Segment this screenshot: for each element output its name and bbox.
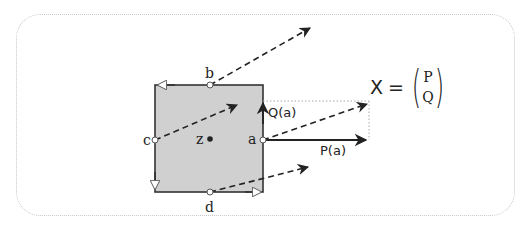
label-c: c bbox=[143, 132, 151, 148]
vector-field-diagram: b c z a d Q(a) P(a) bbox=[0, 0, 532, 232]
point-a bbox=[260, 137, 266, 143]
point-b bbox=[207, 82, 213, 88]
formula-open-paren: ( bbox=[412, 64, 421, 110]
formula-close-paren: ) bbox=[434, 64, 443, 110]
formula-top-entry: P bbox=[423, 67, 432, 87]
point-c bbox=[152, 137, 158, 143]
formula-equals: = bbox=[388, 76, 404, 98]
label-z: z bbox=[196, 131, 203, 147]
label-p-of-a: P(a) bbox=[320, 143, 346, 158]
label-a: a bbox=[248, 131, 256, 147]
center-point-z bbox=[207, 136, 213, 142]
label-q-of-a: Q(a) bbox=[268, 105, 296, 120]
formula-column-vector: P Q bbox=[422, 67, 433, 107]
vector-at-b bbox=[210, 28, 310, 85]
vector-field-formula: X = ( P Q ) bbox=[370, 64, 448, 110]
formula-bottom-entry: Q bbox=[422, 87, 433, 107]
label-d: d bbox=[205, 199, 214, 215]
label-b: b bbox=[205, 65, 214, 81]
point-d bbox=[207, 189, 213, 195]
formula-lhs: X bbox=[370, 76, 383, 98]
